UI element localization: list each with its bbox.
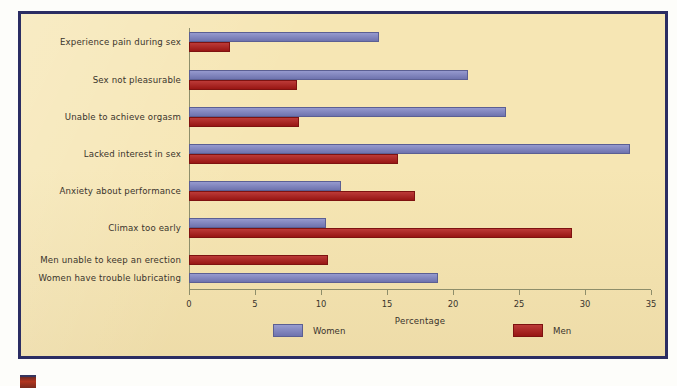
- x-tick: [321, 290, 322, 295]
- x-tick-label: 20: [448, 299, 459, 309]
- men-swatch: [513, 324, 543, 337]
- category-label: Experience pain during sex: [0, 37, 181, 47]
- x-axis-line: [189, 289, 651, 290]
- x-tick: [255, 290, 256, 295]
- x-tick-label: 10: [316, 299, 327, 309]
- x-tick-label: 5: [252, 299, 257, 309]
- clipped-page-icon: [20, 375, 36, 388]
- legend-label: Women: [313, 326, 345, 336]
- x-tick: [387, 290, 388, 295]
- bar-women: [189, 70, 468, 80]
- category-label: Unable to achieve orgasm: [0, 112, 181, 122]
- x-tick: [585, 290, 586, 295]
- bar-women: [189, 181, 341, 191]
- x-tick-label: 0: [186, 299, 191, 309]
- x-tick-label: 35: [646, 299, 657, 309]
- bar-men: [189, 228, 572, 238]
- bar-men: [189, 80, 297, 90]
- category-label: Lacked interest in sex: [0, 149, 181, 159]
- bar-men: [189, 42, 230, 52]
- bar-men: [189, 154, 398, 164]
- bar-men: [189, 191, 415, 201]
- category-label: Sex not pleasurable: [0, 75, 181, 85]
- bar-women: [189, 144, 630, 154]
- legend-item: Women: [273, 324, 345, 337]
- x-tick: [651, 290, 652, 295]
- chart-frame: Experience pain during sexSex not pleasu…: [18, 11, 668, 359]
- x-tick: [189, 290, 190, 295]
- category-label-column: Experience pain during sexSex not pleasu…: [0, 14, 181, 356]
- category-label: Men unable to keep an erection: [0, 255, 181, 265]
- x-tick-label: 30: [580, 299, 591, 309]
- legend-label: Men: [553, 326, 571, 336]
- category-label: Anxiety about performance: [0, 186, 181, 196]
- x-tick: [453, 290, 454, 295]
- legend-item: Men: [513, 324, 571, 337]
- women-swatch: [273, 324, 303, 337]
- x-tick-label: 15: [382, 299, 393, 309]
- bar-men: [189, 117, 299, 127]
- bar-women: [189, 107, 506, 117]
- category-label: Women have trouble lubricating: [0, 273, 181, 283]
- x-tick: [519, 290, 520, 295]
- bar-women: [189, 218, 326, 228]
- plot-area: 05101520253035 Percentage: [189, 28, 651, 290]
- x-tick-label: 25: [514, 299, 525, 309]
- bar-women: [189, 32, 379, 42]
- category-label: Climax too early: [0, 223, 181, 233]
- chart-legend: WomenMen: [21, 324, 665, 338]
- bar-women: [189, 273, 438, 283]
- bar-men: [189, 255, 328, 265]
